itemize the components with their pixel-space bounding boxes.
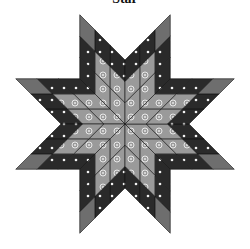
lone-star-block <box>0 0 250 249</box>
star-pieces <box>16 15 235 234</box>
